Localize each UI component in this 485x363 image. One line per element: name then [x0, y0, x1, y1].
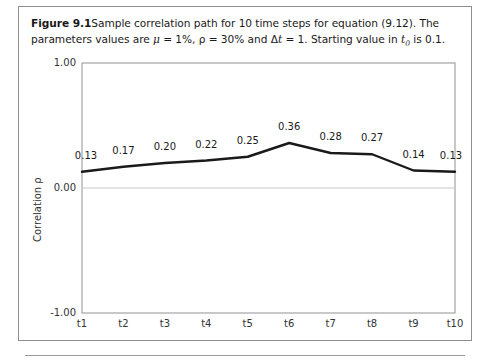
- data-label-t7: 0.28: [314, 131, 348, 142]
- caption-text-2: = 1%,: [160, 33, 199, 45]
- section-divider: [25, 355, 465, 356]
- x-tick-t1: t1: [67, 318, 97, 329]
- y-tick-neg1: -1.00: [34, 307, 76, 318]
- data-label-t5: 0.25: [231, 135, 265, 146]
- data-label-t6: 0.36: [272, 121, 306, 132]
- data-label-t10: 0.13: [434, 150, 468, 161]
- data-label-t8: 0.27: [355, 132, 389, 143]
- x-tick-t9: t9: [399, 318, 429, 329]
- caption-text-5: is 0.1.: [410, 33, 445, 45]
- data-label-t3: 0.20: [148, 141, 182, 152]
- x-tick-t7: t7: [316, 318, 346, 329]
- data-label-t9: 0.14: [397, 149, 431, 160]
- data-label-t4: 0.22: [189, 139, 223, 150]
- delta-symbol: Δ: [271, 33, 278, 45]
- mu-symbol: μ: [153, 33, 160, 45]
- caption-text-4: = 1. Starting value in: [282, 33, 401, 45]
- figure-caption: Figure 9.1Sample correlation path for 10…: [31, 16, 461, 51]
- y-axis-title: Correlation ρ: [32, 177, 43, 242]
- x-tick-t4: t4: [191, 318, 221, 329]
- data-label-t2: 0.17: [106, 145, 140, 156]
- data-label-t1: 0.13: [69, 150, 103, 161]
- x-tick-t3: t3: [150, 318, 180, 329]
- x-tick-t8: t8: [357, 318, 387, 329]
- figure-box: Figure 9.1Sample correlation path for 10…: [18, 6, 472, 341]
- x-tick-t5: t5: [233, 318, 263, 329]
- y-tick-1: 1.00: [34, 57, 76, 68]
- caption-text-3: = 30% and: [205, 33, 270, 45]
- x-tick-t2: t2: [108, 318, 138, 329]
- x-tick-t10: t10: [440, 318, 470, 329]
- figure-label: Figure 9.1: [31, 17, 91, 29]
- x-tick-t6: t6: [274, 318, 304, 329]
